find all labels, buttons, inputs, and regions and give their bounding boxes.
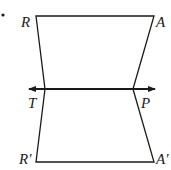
label-A-prime: A′ (155, 151, 169, 167)
figure-RTPA (36, 16, 154, 89)
bullet-dot (1, 13, 4, 16)
label-R-prime: R′ (18, 151, 32, 167)
label-P: P (140, 95, 150, 111)
label-T: T (28, 95, 38, 111)
label-R: R (20, 14, 30, 30)
figure-reflected (36, 89, 154, 162)
label-A: A (155, 14, 166, 30)
reflection-diagram: R A T P R′ A′ (0, 0, 171, 170)
